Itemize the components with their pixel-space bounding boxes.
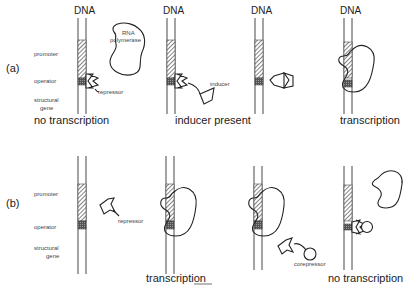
operator-region xyxy=(167,78,175,85)
rna-label: RNA xyxy=(122,30,135,36)
repressor-shape xyxy=(278,238,293,254)
panel-a3: DNA xyxy=(251,5,293,114)
operator-region xyxy=(344,224,352,230)
panel-b1: repressor xyxy=(78,156,143,274)
caption-no-transcription: no transcription xyxy=(34,114,109,126)
caption-inducer-present: inducer present xyxy=(175,114,251,126)
promoter-label: promoter xyxy=(34,191,58,197)
panel-b4: no transcription xyxy=(328,166,403,284)
promoter-region xyxy=(78,184,86,221)
corepressor-arrow xyxy=(294,244,306,250)
inducer-label: inducer xyxy=(210,81,230,87)
caption-no-transcription: no transcription xyxy=(328,272,403,284)
repressor-label: repressor xyxy=(98,89,123,95)
polymerase-label: polymerase xyxy=(110,37,142,43)
panel-a2: DNA inducer inducer present xyxy=(163,5,251,126)
operator-region xyxy=(255,78,263,85)
inactive-repressor-shape xyxy=(100,198,115,214)
caption-transcription: transcription xyxy=(146,272,206,284)
operator-region xyxy=(78,78,86,85)
operator-region xyxy=(344,80,352,87)
inducer-bound-shape xyxy=(284,73,293,88)
repressor-inducer-complex xyxy=(270,73,284,88)
panel-b2: transcription xyxy=(146,156,212,284)
corepressor-label: corepressor xyxy=(294,261,326,267)
promoter-region xyxy=(78,40,86,78)
dna-label: DNA xyxy=(251,5,272,16)
promoter-label: promoter xyxy=(34,51,58,57)
operator-label: operator xyxy=(34,224,56,230)
row-a-label: (a) xyxy=(6,62,19,74)
repressor-shape xyxy=(86,74,98,88)
panel-a4: DNA transcription xyxy=(339,5,400,126)
promoter-region xyxy=(167,40,175,78)
promoter-region xyxy=(344,185,352,221)
dna-label: DNA xyxy=(340,5,361,16)
panel-b3: corepressor xyxy=(249,166,326,270)
repressor-label: repressor xyxy=(118,218,143,224)
gene-label: gene xyxy=(40,105,54,111)
repressor-pointer xyxy=(113,210,119,216)
inducer-arrow xyxy=(188,83,200,94)
rna-polymerase-free-shape xyxy=(372,171,402,208)
gene-label: gene xyxy=(46,253,60,259)
corepressor-bound-circle xyxy=(362,222,373,233)
dna-label: DNA xyxy=(163,5,184,16)
structural-label: structural xyxy=(34,97,59,103)
promoter-region xyxy=(255,40,263,78)
structural-label: structural xyxy=(34,245,59,251)
corepressor-circle xyxy=(304,248,316,260)
row-b-label: (b) xyxy=(6,197,19,209)
dna-label: DNA xyxy=(74,5,95,16)
caption-transcription: transcription xyxy=(340,114,400,126)
operator-region xyxy=(78,221,86,229)
repressor-shape xyxy=(175,74,187,88)
operator-label: operator xyxy=(34,78,56,84)
lac-operon-diagram: (a) promoter operator structural gene DN… xyxy=(0,0,408,288)
inducer-shape xyxy=(200,88,214,104)
